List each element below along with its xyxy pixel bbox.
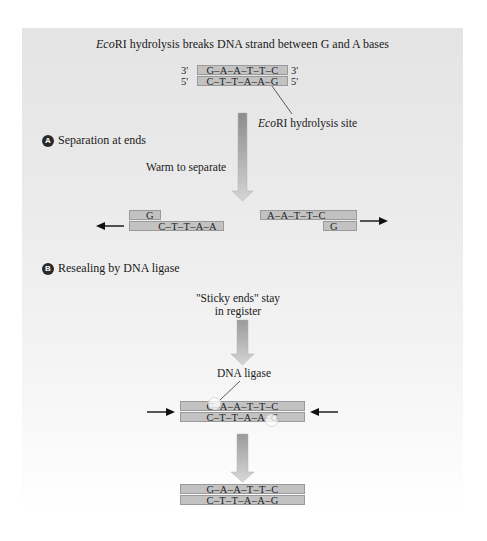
ligase-enzyme-bottom bbox=[265, 414, 278, 427]
sealed-top-strand: G–A–A–T–T–C bbox=[180, 484, 305, 494]
ligating-bottom-strand: C–T–T–A–A–G bbox=[180, 412, 305, 422]
left-pointing-arrow-icon bbox=[310, 407, 340, 417]
ligase-enzyme-top bbox=[208, 397, 221, 410]
ligating-top-strand: G–A–A–T–T–C bbox=[180, 401, 305, 411]
sealed-bottom-strand: C–T–T–A–A–G bbox=[180, 495, 305, 505]
down-arrow-sealed bbox=[228, 434, 258, 484]
right-pointing-arrow-icon bbox=[147, 407, 177, 417]
